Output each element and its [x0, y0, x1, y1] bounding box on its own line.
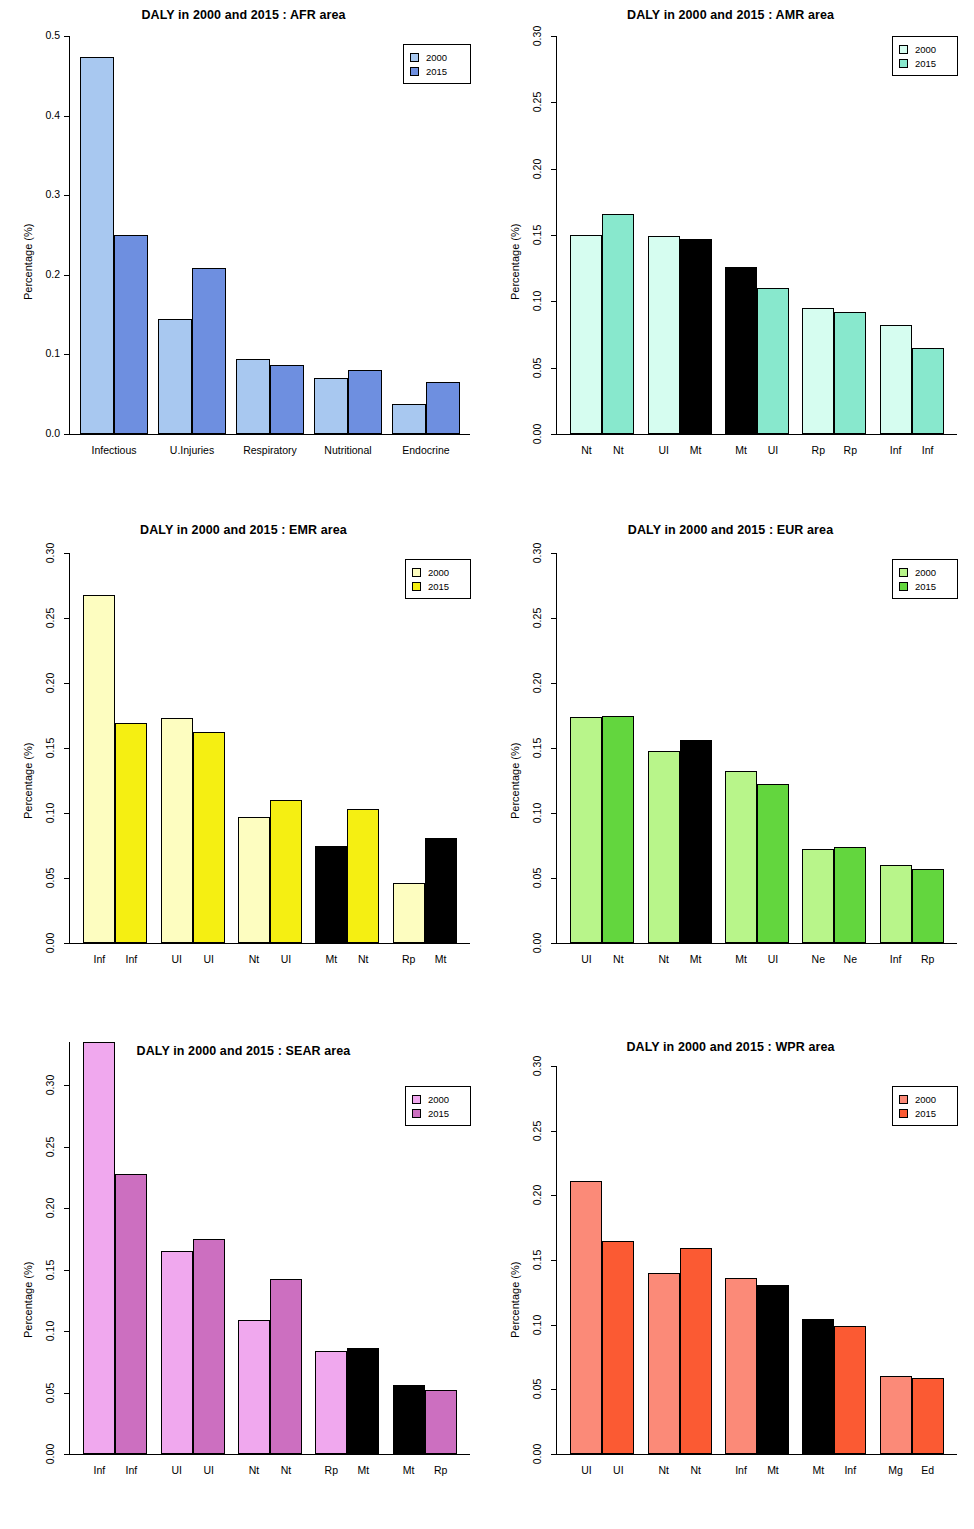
legend-item: 2015 — [899, 579, 950, 593]
y-tick — [64, 1454, 69, 1455]
bar — [161, 1251, 193, 1454]
y-tick-label: 0.10 — [531, 803, 543, 823]
y-tick — [64, 1331, 69, 1332]
chart-grid: DALY in 2000 and 2015 : AFR areaPercenta… — [0, 0, 974, 1529]
y-tick-label: 0.25 — [44, 608, 56, 628]
y-tick — [64, 116, 69, 117]
legend-swatch-icon — [899, 582, 908, 591]
y-axis-label: Percentage (%) — [22, 1262, 34, 1338]
bar — [193, 1239, 225, 1454]
bar — [880, 1376, 912, 1454]
y-tick-label: 0.05 — [531, 357, 543, 377]
bar — [834, 847, 866, 943]
bar — [880, 865, 912, 943]
x-axis-line — [556, 1454, 957, 1455]
y-tick — [551, 368, 556, 369]
y-axis-label: Percentage (%) — [22, 743, 34, 819]
legend-label: 2000 — [426, 52, 447, 63]
bar — [602, 716, 634, 944]
y-tick-label: 0.0 — [28, 427, 60, 439]
bar — [238, 817, 270, 943]
bar — [602, 214, 634, 434]
x-tick-label: Rp — [900, 953, 956, 965]
y-tick-label: 0.25 — [531, 1120, 543, 1140]
legend-item: 2000 — [899, 1092, 950, 1106]
y-tick — [551, 301, 556, 302]
legend: 20002015 — [892, 1086, 958, 1126]
bar — [83, 1042, 115, 1454]
bar — [757, 1285, 789, 1454]
bar — [348, 370, 382, 434]
bar — [236, 359, 270, 434]
y-tick-label: 0.00 — [531, 424, 543, 444]
legend: 20002015 — [405, 559, 471, 599]
x-axis-line — [69, 1454, 470, 1455]
chart-title: DALY in 2000 and 2015 : EMR area — [0, 523, 487, 537]
y-tick-label: 0.1 — [28, 347, 60, 359]
bar — [602, 1241, 634, 1454]
y-tick — [64, 683, 69, 684]
x-axis-line — [69, 943, 470, 944]
bar — [648, 751, 680, 943]
bar — [83, 595, 115, 943]
panel-amr: DALY in 2000 and 2015 : AMR areaPercenta… — [487, 0, 974, 509]
y-tick — [551, 683, 556, 684]
legend-label: 2000 — [915, 44, 936, 55]
bar — [161, 718, 193, 943]
y-tick — [551, 1195, 556, 1196]
y-tick — [551, 1454, 556, 1455]
bar — [912, 348, 944, 434]
legend-item: 2000 — [899, 42, 950, 56]
bar — [425, 1390, 457, 1454]
chart-title: DALY in 2000 and 2015 : WPR area — [487, 1040, 974, 1054]
legend-item: 2015 — [899, 56, 950, 70]
bar — [393, 883, 425, 943]
y-tick — [551, 434, 556, 435]
panel-sear: DALY in 2000 and 2015 : SEAR areaPercent… — [0, 1018, 487, 1529]
bar — [426, 382, 460, 434]
bar — [115, 1174, 147, 1454]
bar — [270, 1279, 302, 1454]
legend-swatch-icon — [412, 1095, 421, 1104]
legend-swatch-icon — [410, 53, 419, 62]
y-axis-label: Percentage (%) — [509, 1262, 521, 1338]
bar — [680, 740, 712, 943]
y-tick — [551, 878, 556, 879]
panel-emr: DALY in 2000 and 2015 : EMR areaPercenta… — [0, 509, 487, 1018]
legend-item: 2000 — [899, 565, 950, 579]
y-tick-label: 0.15 — [531, 1250, 543, 1270]
legend-item: 2015 — [412, 579, 463, 593]
y-tick-label: 0.25 — [531, 608, 543, 628]
legend-label: 2000 — [428, 1094, 449, 1105]
legend-swatch-icon — [899, 1109, 908, 1118]
y-tick-label: 0.05 — [44, 868, 56, 888]
bar — [880, 325, 912, 434]
y-tick — [551, 102, 556, 103]
y-tick-label: 0.4 — [28, 109, 60, 121]
y-axis-line — [556, 1066, 557, 1454]
bar — [725, 267, 757, 434]
legend-label: 2015 — [915, 581, 936, 592]
y-tick — [64, 354, 69, 355]
legend-label: 2000 — [915, 567, 936, 578]
bar — [192, 268, 226, 434]
y-tick — [64, 618, 69, 619]
bar — [114, 235, 148, 434]
x-tick-label: Inf — [900, 444, 956, 456]
legend-swatch-icon — [899, 1095, 908, 1104]
chart-title: DALY in 2000 and 2015 : AFR area — [0, 8, 487, 22]
legend-label: 2015 — [426, 66, 447, 77]
y-axis-line — [69, 36, 70, 434]
bar — [314, 378, 348, 434]
bar — [802, 849, 834, 943]
bar — [80, 57, 114, 434]
y-tick — [551, 748, 556, 749]
bar — [115, 723, 147, 943]
x-axis-line — [556, 434, 957, 435]
bar — [425, 838, 457, 943]
x-axis-line — [556, 943, 957, 944]
bar — [238, 1320, 270, 1454]
bar — [802, 1319, 834, 1454]
chart-title: DALY in 2000 and 2015 : AMR area — [487, 8, 974, 22]
bar — [680, 1248, 712, 1454]
